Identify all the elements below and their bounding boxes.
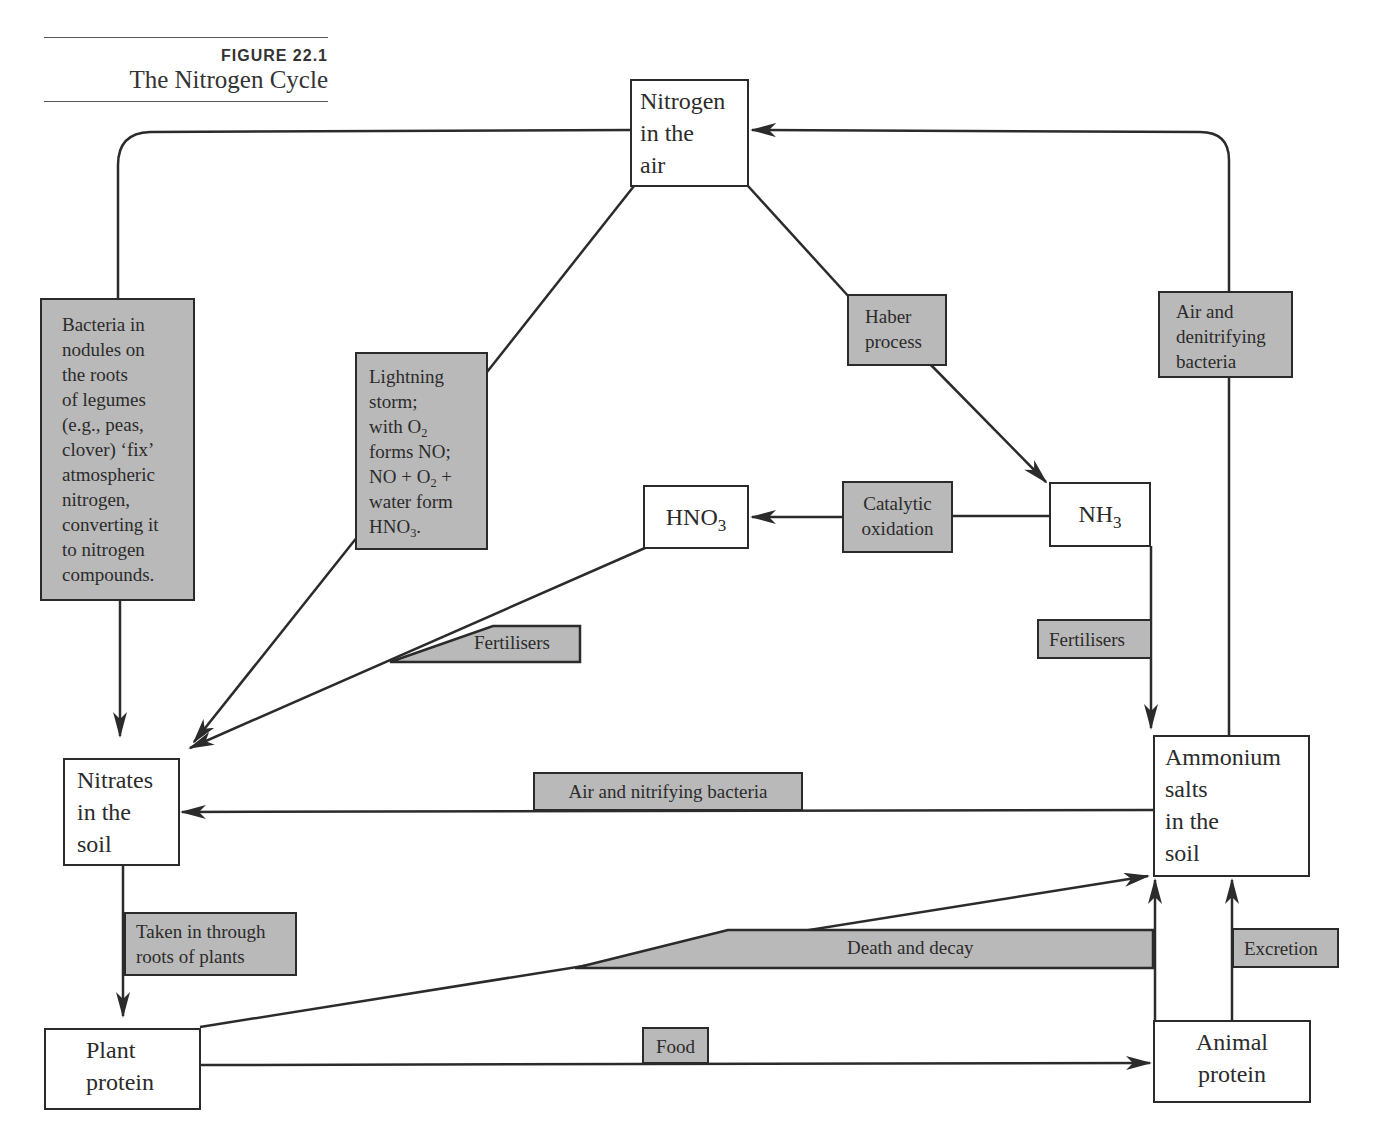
node-nh3-text: NH bbox=[1078, 501, 1113, 527]
label-haber-text: Haber process bbox=[865, 304, 945, 354]
label-catalytic-oxidation: Catalytic oxidation bbox=[842, 481, 953, 553]
label-air-nitrifying-bacteria: Air and nitrifying bacteria bbox=[533, 772, 803, 811]
edge-air-to-bacteria bbox=[118, 130, 632, 298]
label-food-text: Food bbox=[644, 1034, 707, 1059]
label-taken-in-roots: Taken in through roots of plants bbox=[124, 912, 297, 976]
node-nitrates-in-soil: Nitrates in the soil bbox=[63, 758, 180, 866]
node-ammonium-salts-text: Ammonium salts in the soil bbox=[1165, 741, 1308, 869]
label-roots-text: Taken in through roots of plants bbox=[136, 919, 295, 969]
node-nh3: NH3 bbox=[1049, 482, 1151, 547]
edge-haber-to-nh3 bbox=[930, 364, 1046, 482]
label-nitrifying-text: Air and nitrifying bacteria bbox=[535, 779, 801, 804]
label-death-and-decay: Death and decay bbox=[847, 935, 974, 960]
node-nitrates-in-soil-text: Nitrates in the soil bbox=[77, 764, 178, 860]
edge-air-to-haber bbox=[748, 186, 850, 298]
label-fertilisers-right-text: Fertilisers bbox=[1049, 627, 1150, 652]
nitrogen-cycle-diagram: FIGURE 22.1 The Nitrogen Cycle bbox=[0, 0, 1379, 1144]
label-denitrifying-bacteria: Air and denitrifying bacteria bbox=[1158, 291, 1293, 378]
node-plant-protein-text: Plant protein bbox=[86, 1034, 199, 1098]
node-hno3-text: HNO bbox=[666, 504, 718, 530]
node-animal-protein: Animal protein bbox=[1153, 1020, 1311, 1103]
label-excretion: Excretion bbox=[1232, 928, 1339, 968]
label-fertilisers-left-text: Fertilisers bbox=[474, 630, 550, 655]
label-excretion-text: Excretion bbox=[1244, 936, 1337, 961]
label-denitrifying-text: Air and denitrifying bacteria bbox=[1176, 299, 1291, 374]
node-animal-protein-text: Animal protein bbox=[1155, 1026, 1309, 1090]
label-fertilisers-right: Fertilisers bbox=[1037, 619, 1152, 659]
label-food: Food bbox=[642, 1027, 709, 1064]
label-haber-process: Haber process bbox=[847, 294, 947, 366]
label-lightning-storm: Lightning storm; with O2 forms NO; NO + … bbox=[355, 352, 488, 550]
edge-air-to-lightning bbox=[487, 186, 634, 372]
node-hno3-subscript: 3 bbox=[718, 516, 727, 535]
node-plant-protein: Plant protein bbox=[44, 1028, 201, 1110]
label-catalytic-text: Catalytic oxidation bbox=[844, 491, 951, 541]
label-death-decay-text: Death and decay bbox=[847, 935, 974, 960]
label-lightning-text: Lightning storm; with O2 forms NO; NO + … bbox=[369, 364, 486, 539]
node-nitrogen-in-air-text: Nitrogen in the air bbox=[640, 85, 747, 181]
label-bacteria-legumes: Bacteria in nodules on the roots of legu… bbox=[40, 298, 195, 601]
node-nitrogen-in-air: Nitrogen in the air bbox=[630, 79, 749, 187]
node-hno3: HNO3 bbox=[643, 485, 749, 549]
node-nh3-subscript: 3 bbox=[1113, 513, 1122, 532]
label-fertilisers-left: Fertilisers bbox=[474, 630, 550, 655]
node-ammonium-salts-in-soil: Ammonium salts in the soil bbox=[1153, 735, 1310, 877]
label-bacteria-legumes-text: Bacteria in nodules on the roots of legu… bbox=[62, 312, 193, 587]
